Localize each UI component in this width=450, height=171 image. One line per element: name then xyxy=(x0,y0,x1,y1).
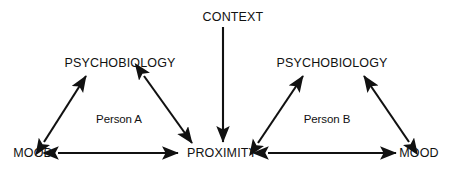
edge-psychobiology-a-proximity xyxy=(144,76,192,143)
node-psychobiology-b: PSYCHOBIOLOGY xyxy=(276,57,387,70)
node-context: CONTEXT xyxy=(203,11,264,24)
group-label-person-a: Person A xyxy=(96,114,142,126)
node-mood-a: MOOD xyxy=(13,147,53,160)
edge-proximity-psychobiology-b xyxy=(258,76,303,143)
node-proximity: PROXIMITY xyxy=(187,147,257,160)
node-mood-b: MOOD xyxy=(399,147,439,160)
group-label-person-b: Person B xyxy=(304,114,351,126)
edge-mood-a-psychobiology-a xyxy=(44,76,86,142)
relationship-diagram: CONTEXT PSYCHOBIOLOGY PSYCHOBIOLOGY MOOD… xyxy=(0,0,450,171)
edge-mood-b-psychobiology-b xyxy=(364,76,409,142)
node-psychobiology-a: PSYCHOBIOLOGY xyxy=(64,57,175,70)
